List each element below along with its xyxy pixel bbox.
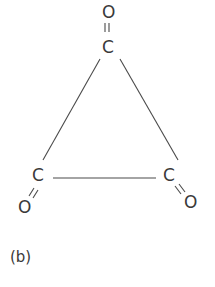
cyclopropanetrione-diagram: O C C O C O (b)	[0, 0, 215, 287]
double-bond-right-a	[175, 186, 181, 194]
figure-caption: (b)	[10, 249, 31, 265]
atom-o-top: O	[102, 4, 115, 21]
atom-c-top: C	[102, 39, 114, 56]
atom-o-right: O	[184, 194, 197, 211]
atom-c-right: C	[163, 167, 175, 184]
double-bond-left-a	[29, 188, 34, 196]
bond-ctop-cleft	[43, 59, 100, 160]
atom-c-left: C	[32, 167, 44, 184]
double-bond-right-b	[179, 184, 185, 192]
double-bond-left-b	[33, 190, 38, 198]
bond-ctop-cright	[120, 59, 178, 160]
atom-o-left: O	[18, 199, 31, 216]
